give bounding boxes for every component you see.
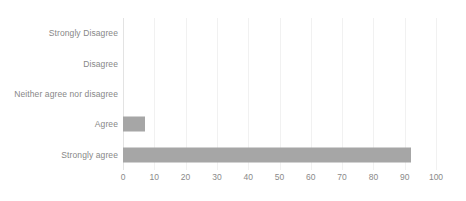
bar-row bbox=[123, 109, 436, 139]
x-axis-tick-label: 90 bbox=[400, 172, 409, 182]
y-axis-label-strongly-agree: Strongly agree bbox=[0, 140, 118, 170]
y-axis-label-neither-agree-nor-disagree: Neither agree nor disagree bbox=[0, 79, 118, 109]
bar bbox=[123, 117, 145, 132]
y-axis-label-text: Agree bbox=[95, 119, 118, 129]
bar-chart: Strongly Disagree Disagree Neither agree… bbox=[0, 0, 466, 201]
bar-row bbox=[123, 79, 436, 109]
x-axis-tick-label: 20 bbox=[181, 172, 190, 182]
y-axis-label-strongly-disagree: Strongly Disagree bbox=[0, 18, 118, 48]
x-axis-tick-label: 0 bbox=[121, 172, 126, 182]
gridline-100 bbox=[436, 18, 437, 170]
y-axis-label-text: Strongly Disagree bbox=[49, 28, 118, 38]
bars-layer bbox=[123, 18, 436, 170]
x-axis-tick-label: 60 bbox=[306, 172, 315, 182]
y-axis-label-text: Strongly agree bbox=[61, 150, 118, 160]
x-axis-tick-label: 40 bbox=[243, 172, 252, 182]
bar-row bbox=[123, 140, 436, 170]
bar-row bbox=[123, 18, 436, 48]
y-axis-label-text: Neither agree nor disagree bbox=[14, 89, 118, 99]
y-axis-category-labels: Strongly Disagree Disagree Neither agree… bbox=[0, 18, 118, 170]
y-axis-label-text: Disagree bbox=[83, 59, 118, 69]
x-axis-tick-labels: 0102030405060708090100 bbox=[123, 172, 436, 186]
plot-area bbox=[123, 18, 436, 170]
bar-row bbox=[123, 48, 436, 78]
x-axis-tick-label: 10 bbox=[150, 172, 159, 182]
y-axis-label-agree: Agree bbox=[0, 109, 118, 139]
x-axis-tick-label: 100 bbox=[429, 172, 443, 182]
x-axis-tick-label: 70 bbox=[337, 172, 346, 182]
bar bbox=[123, 147, 411, 162]
x-axis-tick-label: 80 bbox=[369, 172, 378, 182]
x-axis-tick-label: 50 bbox=[275, 172, 284, 182]
y-axis-label-disagree: Disagree bbox=[0, 48, 118, 78]
x-axis-tick-label: 30 bbox=[212, 172, 221, 182]
